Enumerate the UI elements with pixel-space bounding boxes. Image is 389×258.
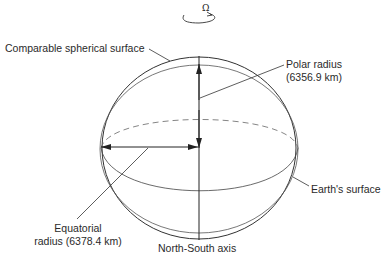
label-comparable-sphere: Comparable spherical surface: [5, 42, 144, 55]
leader-equatorial-radius: [77, 148, 148, 219]
label-polar-radius-title: Polar radius: [286, 58, 342, 71]
label-equatorial-radius-title: Equatorial: [28, 222, 128, 235]
label-polar-radius-value: (6356.9 km): [286, 71, 342, 84]
earth-shape-diagram: [0, 0, 389, 258]
label-polar-radius: Polar radius (6356.9 km): [286, 58, 342, 84]
leader-comparable-sphere: [149, 49, 170, 61]
label-equatorial-radius-value: radius (6378.4 km): [28, 235, 128, 248]
rotation-arrow-icon: [183, 12, 215, 23]
leader-polar-radius: [200, 65, 284, 98]
leader-earth-surface: [293, 177, 309, 186]
label-earth-surface: Earth's surface: [311, 183, 381, 196]
label-equatorial-radius: Equatorial radius (6378.4 km): [28, 222, 128, 248]
omega-symbol: Ω: [202, 3, 209, 13]
label-north-south-axis: North-South axis: [158, 242, 236, 255]
